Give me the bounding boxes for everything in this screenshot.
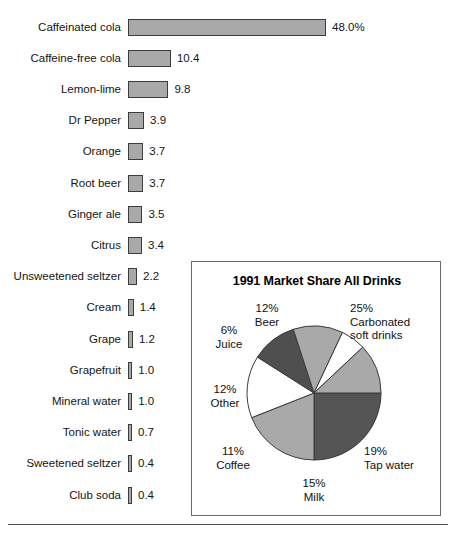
bar-value-label: 1.2 bbox=[133, 333, 155, 346]
pie-callout-juice: 6% Juice bbox=[198, 324, 260, 351]
bar-row: Lemon-lime9.8 bbox=[0, 78, 456, 100]
bar-rect bbox=[128, 19, 326, 36]
bar-value-label: 2.2 bbox=[137, 270, 159, 283]
bar-category-label: Tonic water bbox=[0, 426, 128, 439]
bar-row: Ginger ale3.5 bbox=[0, 203, 456, 225]
pie-callout-milk: 15% Milk bbox=[284, 477, 344, 504]
bar-category-label: Citrus bbox=[0, 239, 128, 252]
bar-track: 9.8 bbox=[128, 78, 190, 100]
bar-track: 3.5 bbox=[128, 203, 164, 225]
pie-callout-other-pct: 12% bbox=[194, 383, 256, 397]
bar-value-label: 48.0% bbox=[326, 21, 365, 34]
pie-callout-coffee-pct: 11% bbox=[200, 445, 266, 459]
bar-track: 1.2 bbox=[128, 328, 155, 350]
pie-callout-juice-name: Juice bbox=[198, 338, 260, 352]
bar-value-label: 9.8 bbox=[168, 83, 190, 96]
bar-value-label: 10.4 bbox=[171, 52, 199, 65]
bar-value-label: 1.4 bbox=[134, 301, 156, 314]
bar-track: 1.0 bbox=[128, 359, 154, 381]
bar-rect bbox=[128, 81, 168, 98]
bar-value-label: 3.4 bbox=[142, 239, 164, 252]
pie-callout-carbonated-name-line1: Carbonated bbox=[350, 316, 442, 330]
bar-track: 0.7 bbox=[128, 422, 154, 444]
bar-row: Citrus3.4 bbox=[0, 234, 456, 256]
pie-callout-carbonated: 25% Carbonated soft drinks bbox=[350, 302, 442, 343]
bar-category-label: Dr Pepper bbox=[0, 114, 128, 127]
bar-rect bbox=[128, 143, 143, 160]
pie-callout-tap-water-name: Tap water bbox=[364, 459, 442, 473]
bar-rect bbox=[128, 206, 142, 223]
bar-track: 3.9 bbox=[128, 110, 166, 132]
bar-row: Caffeinated cola48.0% bbox=[0, 16, 456, 38]
bar-value-label: 0.4 bbox=[132, 489, 154, 502]
bar-rect bbox=[128, 237, 142, 254]
bar-value-label: 1.0 bbox=[132, 395, 154, 408]
bar-rect bbox=[128, 175, 143, 192]
bar-category-label: Root beer bbox=[0, 177, 128, 190]
bar-row: Dr Pepper3.9 bbox=[0, 110, 456, 132]
bar-track: 10.4 bbox=[128, 47, 199, 69]
bar-category-label: Mineral water bbox=[0, 395, 128, 408]
bar-value-label: 3.7 bbox=[143, 177, 165, 190]
pie-callout-beer-pct: 12% bbox=[232, 302, 302, 316]
bar-track: 3.4 bbox=[128, 234, 164, 256]
bar-track: 48.0% bbox=[128, 16, 365, 38]
bar-track: 1.4 bbox=[128, 297, 156, 319]
bar-value-label: 3.5 bbox=[142, 208, 164, 221]
bar-category-label: Sweetened seltzer bbox=[0, 457, 128, 470]
bar-rect bbox=[128, 50, 171, 67]
market-share-pie-inset-panel: 1991 Market Share All Drinks 12% Beer 6%… bbox=[191, 261, 441, 516]
pie-callout-juice-pct: 6% bbox=[198, 324, 260, 338]
pie-callout-coffee: 11% Coffee bbox=[200, 445, 266, 472]
pie-callout-carbonated-pct: 25% bbox=[350, 302, 442, 316]
bar-value-label: 3.9 bbox=[144, 114, 166, 127]
pie-callout-tap-water: 19% Tap water bbox=[364, 445, 442, 472]
bar-row: Root beer3.7 bbox=[0, 172, 456, 194]
bar-track: 1.0 bbox=[128, 390, 154, 412]
pie-callout-tap-water-pct: 19% bbox=[364, 445, 442, 459]
bar-row: Caffeine-free cola10.4 bbox=[0, 47, 456, 69]
bar-rect bbox=[128, 112, 144, 129]
bar-category-label: Lemon-lime bbox=[0, 83, 128, 96]
bar-category-label: Ginger ale bbox=[0, 208, 128, 221]
bar-category-label: Grape bbox=[0, 333, 128, 346]
bar-row: Orange3.7 bbox=[0, 141, 456, 163]
pie-callout-other-name: Other bbox=[194, 397, 256, 411]
pie-callout-milk-name: Milk bbox=[284, 491, 344, 505]
bar-track: 0.4 bbox=[128, 453, 154, 475]
bar-track: 3.7 bbox=[128, 141, 165, 163]
bar-category-label: Caffeine-free cola bbox=[0, 52, 128, 65]
bar-category-label: Cream bbox=[0, 301, 128, 314]
bar-category-label: Orange bbox=[0, 145, 128, 158]
bar-track: 3.7 bbox=[128, 172, 165, 194]
bar-rect bbox=[128, 268, 137, 285]
bar-category-label: Grapefruit bbox=[0, 364, 128, 377]
pie-callout-milk-pct: 15% bbox=[284, 477, 344, 491]
bar-category-label: Club soda bbox=[0, 489, 128, 502]
pie-callout-carbonated-name-line2: soft drinks bbox=[350, 329, 442, 343]
bar-category-label: Caffeinated cola bbox=[0, 21, 128, 34]
bottom-divider-rule bbox=[8, 524, 448, 525]
pie-callout-other: 12% Other bbox=[194, 383, 256, 410]
bar-category-label: Unsweetened seltzer bbox=[0, 270, 128, 283]
bar-value-label: 3.7 bbox=[143, 145, 165, 158]
bar-track: 0.4 bbox=[128, 484, 154, 506]
bar-track: 2.2 bbox=[128, 266, 159, 288]
pie-callout-coffee-name: Coffee bbox=[200, 459, 266, 473]
bar-value-label: 0.7 bbox=[132, 426, 154, 439]
bar-value-label: 1.0 bbox=[132, 364, 154, 377]
bar-value-label: 0.4 bbox=[132, 457, 154, 470]
